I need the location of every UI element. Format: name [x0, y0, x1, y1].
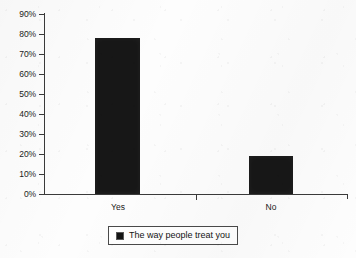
chart-legend: The way people treat you: [108, 226, 238, 245]
y-axis-label-10: 10%: [2, 170, 36, 179]
y-axis-label-20: 20%: [2, 150, 36, 159]
x-axis-category-divider-tick: [196, 195, 197, 200]
legend-swatch-icon: [116, 232, 124, 240]
bar-yes[interactable]: [95, 38, 140, 194]
y-axis-label-90: 90%: [2, 10, 36, 19]
chart-screenshot: 90% 80% 70% 60% 50% 40% 30% 20% 10% 0% Y…: [0, 0, 356, 258]
legend-item-label: The way people treat you: [129, 231, 230, 240]
y-axis-line: [44, 13, 45, 195]
y-axis-label-80: 80%: [2, 30, 36, 39]
y-axis-label-30: 30%: [2, 130, 36, 139]
x-axis-label-no: No: [245, 203, 297, 212]
bar-no[interactable]: [249, 156, 293, 194]
y-axis-label-50: 50%: [2, 90, 36, 99]
y-axis-label-60: 60%: [2, 70, 36, 79]
y-axis-label-70: 70%: [2, 50, 36, 59]
x-axis-end-tick: [347, 194, 348, 199]
y-axis-label-40: 40%: [2, 110, 36, 119]
x-axis-label-yes: Yes: [92, 203, 144, 212]
y-axis-label-0: 0%: [2, 190, 36, 199]
